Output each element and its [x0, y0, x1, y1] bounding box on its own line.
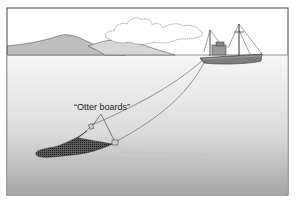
- otter-boards-label: “Otter boards”: [74, 102, 130, 112]
- trawl-fishing-illustration: “Otter boards”: [0, 0, 298, 203]
- sea: [8, 55, 288, 195]
